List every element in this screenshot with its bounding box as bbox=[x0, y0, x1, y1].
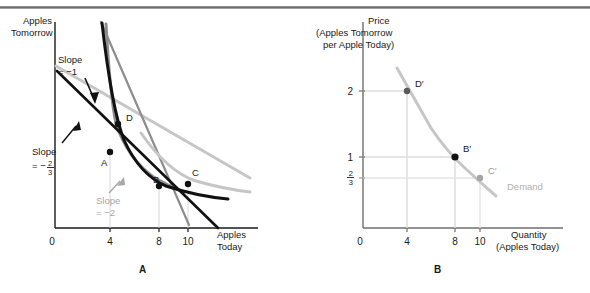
point-B-prime-label: B′ bbox=[463, 143, 471, 154]
budget-line-slope-neg-two-thirds bbox=[56, 66, 250, 178]
panel-b-xtick-label-10: 10 bbox=[474, 236, 486, 247]
point-D-label: D bbox=[126, 112, 133, 123]
panel-b-y-axis-title-line1: Price bbox=[368, 15, 390, 26]
panel-b-svg: Price (Apples Tomorrow per Apple Today) … bbox=[295, 0, 590, 293]
point-B-prime-marker bbox=[451, 153, 458, 160]
panel-a-y-axis-title-line1: Apples bbox=[23, 15, 52, 26]
panel-a-x-axis-title-line2: Today bbox=[217, 241, 243, 252]
demand-curve-label: Demand bbox=[507, 181, 543, 192]
panel-a-y-axis-title-line2: Tomorrow bbox=[11, 27, 53, 38]
panel-b-ytick-label-fraction-denominator: 3 bbox=[349, 178, 353, 187]
panel-b-xtick-label-0: 0 bbox=[357, 236, 363, 247]
point-D-prime-marker bbox=[404, 88, 410, 94]
panel-a-svg: Apples Tomorrow Apples Today 0 4 8 10 D … bbox=[0, 0, 295, 293]
panel-b-ytick-label-1: 1 bbox=[347, 152, 353, 163]
point-C-prime-label: C′ bbox=[488, 165, 497, 176]
panel-a-tick-label-0: 0 bbox=[49, 236, 55, 247]
slope-neg-1-label-line2: = −1 bbox=[58, 66, 77, 77]
panel-a-caption: A bbox=[139, 264, 146, 275]
panel-b-y-axis-title-line3: per Apple Today) bbox=[323, 39, 394, 50]
panel-b-ytick-label-fraction-numerator: 2 bbox=[349, 169, 353, 178]
panel-b-x-axis-title-line2: (Apples Today) bbox=[496, 241, 559, 252]
point-D-prime-label: D′ bbox=[415, 78, 424, 89]
budget-line-slope-neg-1 bbox=[57, 71, 218, 228]
point-A-marker bbox=[107, 149, 113, 155]
slope-neg-1-label-line1: Slope bbox=[58, 54, 82, 65]
slope-neg-2-label-line2: = −2 bbox=[96, 207, 115, 218]
slope-neg-two-thirds-numerator: 2 bbox=[48, 159, 52, 168]
point-C-prime-marker bbox=[477, 175, 483, 181]
slope-neg-two-thirds-label-line2-prefix: = − bbox=[32, 160, 46, 171]
panel-a-x-axis-title-line1: Apples bbox=[217, 229, 246, 240]
slope-neg-2-label-line1: Slope bbox=[96, 195, 120, 206]
point-B-label: B bbox=[153, 174, 159, 185]
slope-neg-two-thirds-arrow-head bbox=[73, 121, 81, 131]
indifference-curve-through-A-B bbox=[102, 23, 228, 199]
slope-neg-2-arrow-head bbox=[117, 177, 125, 186]
panel-b-caption: B bbox=[434, 264, 441, 275]
panel-b-xtick-label-4: 4 bbox=[404, 236, 410, 247]
point-C-label: C bbox=[192, 167, 199, 178]
panel-b-xtick-label-8: 8 bbox=[452, 236, 458, 247]
slope-neg-two-thirds-arrow-shaft bbox=[62, 126, 76, 143]
point-C-marker bbox=[185, 181, 191, 187]
point-D-marker bbox=[115, 121, 121, 127]
panel-a-tick-label-10: 10 bbox=[182, 236, 194, 247]
panel-b-ytick-label-2: 2 bbox=[347, 86, 353, 97]
slope-neg-1-arrow-head bbox=[90, 92, 99, 104]
slope-neg-2-arrow-shaft bbox=[109, 181, 120, 193]
panel-a-tick-label-8: 8 bbox=[156, 236, 162, 247]
slope-neg-two-thirds-denominator: 3 bbox=[48, 168, 52, 177]
panel-b-demand-curve: Price (Apples Tomorrow per Apple Today) … bbox=[295, 0, 590, 293]
panel-a-budget-indifference: Apples Tomorrow Apples Today 0 4 8 10 D … bbox=[0, 0, 295, 293]
slope-neg-two-thirds-label-line1: Slope bbox=[32, 146, 56, 157]
panel-a-tick-label-4: 4 bbox=[107, 236, 113, 247]
panel-b-x-axis-title-line1: Quantity bbox=[511, 229, 547, 240]
point-A-label: A bbox=[101, 157, 108, 168]
panel-b-y-axis-title-line2: (Apples Tomorrow bbox=[316, 27, 393, 38]
